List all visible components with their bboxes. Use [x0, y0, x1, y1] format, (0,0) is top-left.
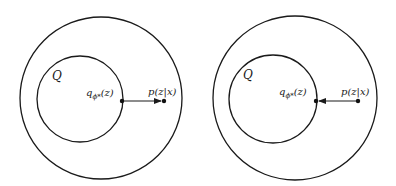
right-panel: Q qϕ*(z) p(z|x): [213, 16, 377, 180]
outer-circle-distribution-space: [20, 17, 182, 179]
outer-circle-distribution-space: [213, 16, 377, 180]
p-posterior-label: p(z|x): [341, 86, 370, 98]
set-label-q: Q: [52, 69, 62, 83]
p-point-dot: [162, 99, 166, 103]
q-phi-star-label: qϕ*(z): [279, 86, 307, 100]
inner-circle-variational-family: [37, 56, 123, 142]
p-posterior-label: p(z|x): [148, 86, 177, 98]
left-panel: Q qϕ*(z) p(z|x): [20, 17, 182, 179]
q-argument: (z): [294, 86, 307, 97]
q-argument: (z): [101, 87, 114, 98]
p-point-dot: [356, 99, 360, 103]
kl-divergence-diagram: Q qϕ*(z) p(z|x) Q qϕ*(z) p(z|x): [0, 0, 396, 186]
q-phi-star-label: qϕ*(z): [86, 87, 114, 101]
set-label-q: Q: [243, 68, 253, 82]
q-point-dot: [120, 99, 124, 103]
q-point-dot: [314, 99, 318, 103]
